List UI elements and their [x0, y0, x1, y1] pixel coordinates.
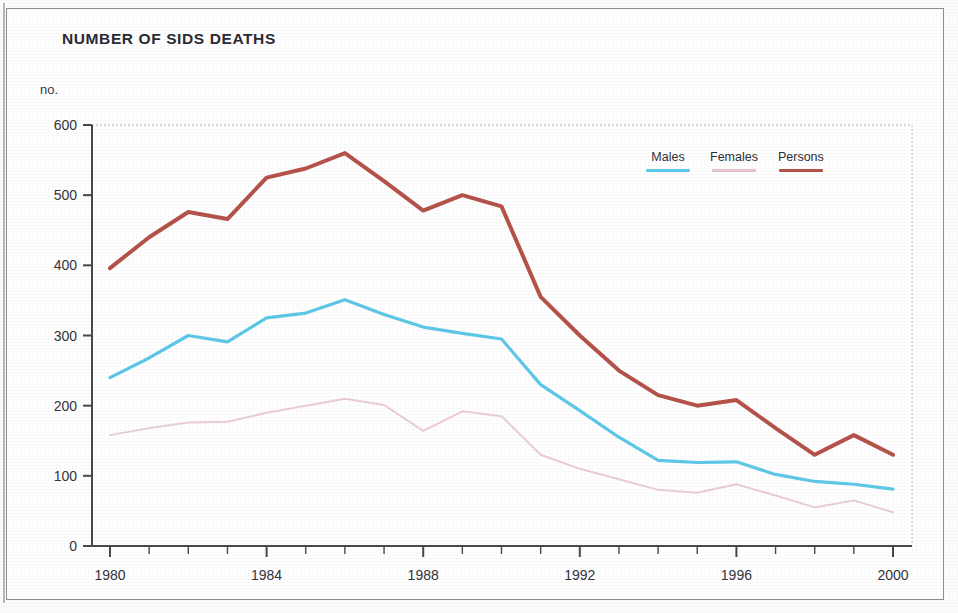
- chart-legend: Males Females Persons: [646, 150, 824, 172]
- y-tick-label: 200: [54, 398, 78, 414]
- x-tick-label: 1992: [564, 567, 595, 583]
- legend-label-females: Females: [710, 150, 758, 164]
- axes-layer: [83, 125, 912, 557]
- x-tick-label: 1980: [94, 567, 125, 583]
- legend-item-females[interactable]: Females: [710, 150, 758, 172]
- line-chart-svg: 0100200300400500600198019841988199219962…: [0, 0, 958, 613]
- x-tick-label: 1984: [251, 567, 282, 583]
- legend-label-persons: Persons: [778, 150, 824, 164]
- legend-item-males[interactable]: Males: [646, 150, 690, 172]
- series-line-females: [110, 399, 893, 513]
- chart-plot-area: 0100200300400500600198019841988199219962…: [0, 0, 958, 613]
- axis-labels-layer: 0100200300400500600198019841988199219962…: [54, 117, 909, 583]
- legend-label-males: Males: [651, 150, 684, 164]
- y-tick-label: 300: [54, 328, 78, 344]
- y-tick-label: 100: [54, 468, 78, 484]
- x-tick-label: 1996: [721, 567, 752, 583]
- series-line-persons: [110, 153, 893, 455]
- x-tick-label: 2000: [877, 567, 908, 583]
- y-tick-label: 500: [54, 187, 78, 203]
- y-tick-label: 0: [69, 538, 77, 554]
- legend-swatch-females: [712, 169, 756, 172]
- legend-swatch-persons: [779, 169, 823, 172]
- page-root: NUMBER OF SIDS DEATHS no. 01002003004005…: [0, 0, 958, 613]
- legend-swatch-males: [646, 169, 690, 172]
- x-tick-label: 1988: [408, 567, 439, 583]
- y-tick-label: 600: [54, 117, 78, 133]
- series-line-males: [110, 300, 893, 489]
- series-layer: [110, 153, 893, 512]
- y-tick-label: 400: [54, 257, 78, 273]
- legend-item-persons[interactable]: Persons: [778, 150, 824, 172]
